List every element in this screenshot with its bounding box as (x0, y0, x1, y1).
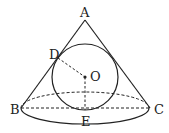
cone-sphere-diagram: A B C D E O (0, 0, 169, 133)
label-E: E (81, 114, 91, 129)
label-O: O (90, 69, 101, 84)
diagram-canvas: A B C D E O (0, 0, 169, 133)
label-B: B (10, 102, 20, 117)
center-point-O (83, 75, 86, 78)
edge-AC (85, 20, 150, 108)
edge-AB (21, 20, 85, 108)
label-D: D (49, 47, 59, 62)
label-A: A (79, 5, 90, 20)
label-C: C (154, 102, 164, 117)
radius-OD (58, 58, 85, 77)
